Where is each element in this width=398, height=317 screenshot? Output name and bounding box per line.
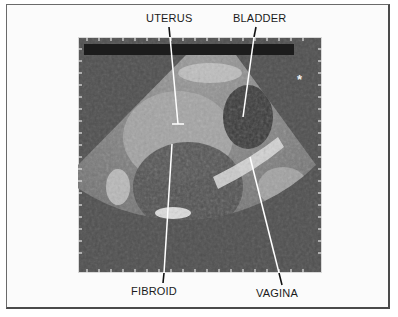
scale-bar <box>84 44 294 55</box>
ultrasound-scan: * <box>78 37 322 273</box>
